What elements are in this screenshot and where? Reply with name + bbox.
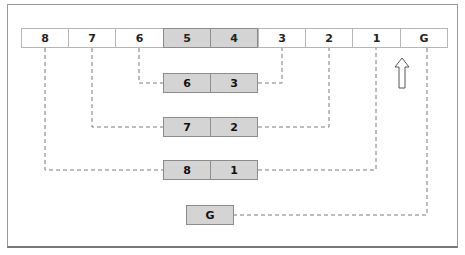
pair-cell-7: 7 [163,117,211,137]
pair-cell-2: 2 [210,117,258,137]
pair-cell-3: 3 [210,73,258,93]
single-g-box: G [186,205,234,225]
pair-cell-1: 1 [210,160,258,180]
pair-cell-6: 6 [163,73,211,93]
pair-cell-8: 8 [163,160,211,180]
up-arrow-icon [395,58,409,88]
